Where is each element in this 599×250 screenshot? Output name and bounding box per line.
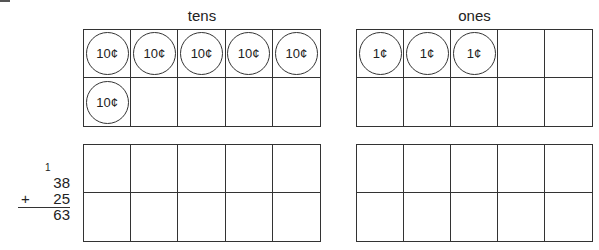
tens-grid-cell: 10¢ (131, 30, 178, 78)
ones-grid-cell (357, 193, 404, 241)
tens-grid-cell (226, 193, 273, 241)
ones-grid-cell (451, 193, 498, 241)
bottom-tens-frame (83, 144, 321, 242)
tens-label: tens (83, 7, 321, 24)
ones-grid-cell (545, 193, 592, 241)
plus-sign: + (21, 191, 30, 207)
tens-grid-cell: 10¢ (84, 30, 131, 78)
dime-coin-icon: 10¢ (227, 32, 270, 75)
penny-coin-icon: 1¢ (359, 32, 402, 75)
tens-grid-cell (226, 145, 273, 193)
tens-grid-cell (178, 145, 225, 193)
ones-grid-cell (451, 145, 498, 193)
ones-grid-cell: 1¢ (357, 30, 404, 78)
tens-grid-cell (178, 193, 225, 241)
tens-grid-cell (84, 193, 131, 241)
tens-grid-cell (273, 78, 320, 126)
ones-grid-cell (545, 145, 592, 193)
tens-grid-cell (84, 145, 131, 193)
ones-label: ones (356, 7, 593, 24)
ones-grid-cell (404, 145, 451, 193)
ones-grid-cell (498, 30, 545, 78)
tens-grid-cell: 10¢ (84, 78, 131, 126)
dime-coin-icon: 10¢ (86, 32, 129, 75)
ones-grid-cell (498, 145, 545, 193)
tens-grid-cell (226, 78, 273, 126)
penny-coin-icon: 1¢ (453, 32, 496, 75)
ones-grid-cell (545, 78, 592, 126)
ones-grid-cell (545, 30, 592, 78)
tens-grid-cell: 10¢ (178, 30, 225, 78)
ones-grid-cell: 1¢ (404, 30, 451, 78)
ones-grid-cell (451, 78, 498, 126)
tens-grid-cell (178, 78, 225, 126)
tens-grid-cell: 10¢ (226, 30, 273, 78)
dime-coin-icon: 10¢ (133, 32, 176, 75)
tens-grid-cell (273, 145, 320, 193)
top-ones-frame: 1¢1¢1¢ (356, 29, 593, 127)
addend-2: 25 (53, 190, 70, 207)
tens-grid-cell (131, 78, 178, 126)
corner-mark (0, 0, 10, 2)
tens-grid-cell (131, 193, 178, 241)
tens-grid-cell: 10¢ (273, 30, 320, 78)
addend-2-row: + 25 (38, 191, 70, 207)
ones-grid-cell (498, 193, 545, 241)
addend-1: 38 (38, 175, 70, 191)
addition-problem: 1 38 + 25 63 (38, 175, 86, 223)
ones-grid-cell: 1¢ (451, 30, 498, 78)
tens-grid-cell (273, 193, 320, 241)
dime-coin-icon: 10¢ (86, 81, 129, 124)
bottom-ones-frame (356, 144, 593, 242)
top-tens-frame: 10¢10¢10¢10¢10¢10¢ (83, 29, 321, 127)
carry-digit: 1 (45, 160, 51, 176)
ones-grid-cell (357, 145, 404, 193)
ones-grid-cell (357, 78, 404, 126)
sum: 63 (38, 207, 70, 223)
ones-grid-cell (404, 78, 451, 126)
dime-coin-icon: 10¢ (275, 32, 318, 75)
tens-grid-cell (131, 145, 178, 193)
dime-coin-icon: 10¢ (180, 32, 223, 75)
ones-grid-cell (498, 78, 545, 126)
ones-grid-cell (404, 193, 451, 241)
penny-coin-icon: 1¢ (406, 32, 449, 75)
